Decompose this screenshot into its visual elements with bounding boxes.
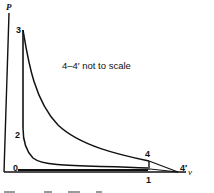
pv-diagram: P v 3 2 0 1 4 4′ 4–4′ not to scale [0,0,214,193]
point-4prime-label: 4′ [180,164,187,173]
caption-fragment [68,191,80,193]
point-3-label: 3 [16,26,21,35]
point-4-label: 4 [145,150,150,159]
point-2-label: 2 [15,131,20,140]
caption-fragment [44,191,52,193]
point-0-label: 0 [13,164,18,173]
not-to-scale-note: 4–4′ not to scale [62,60,131,71]
p-axis [4,13,9,172]
caption-fragment [4,191,15,193]
curve-3-4 [23,30,149,161]
p-axis-label: P [6,3,12,12]
v-axis-label: v [188,168,192,177]
caption-fragment [96,191,102,193]
point-1-label: 1 [146,176,151,185]
curve-1-2 [23,128,148,168]
